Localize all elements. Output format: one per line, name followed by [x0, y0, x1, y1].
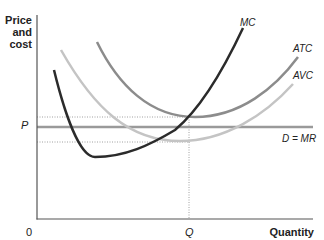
mc-curve	[54, 28, 243, 157]
avc-label: AVC	[293, 70, 313, 81]
mc-label: MC	[240, 17, 256, 28]
y-axis-label-line3: cost	[0, 38, 32, 50]
origin-label: 0	[26, 226, 32, 238]
y-axis-label: Price and cost	[0, 14, 32, 50]
price-tick-label: P	[21, 119, 28, 131]
atc-label: ATC	[293, 43, 312, 54]
y-axis-label-line2: and	[0, 26, 32, 38]
demand-mr-label: D = MR	[282, 133, 316, 144]
cost-curves-chart	[0, 0, 324, 240]
x-axis-label: Quantity	[269, 226, 314, 238]
quantity-tick-label: Q	[185, 226, 194, 238]
y-axis-label-line1: Price	[0, 14, 32, 26]
